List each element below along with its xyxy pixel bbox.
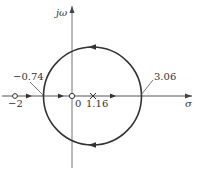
label-minus074: −0.74 bbox=[13, 71, 44, 82]
label-116: 1.16 bbox=[86, 98, 108, 109]
axis-arrow-3 bbox=[110, 94, 116, 99]
locus-arrow-bottom bbox=[88, 142, 96, 147]
label-306: 3.06 bbox=[154, 71, 176, 82]
root-locus-diagram: jω σ −0.74 3.06 −2 0 1.16 bbox=[0, 0, 199, 176]
axis-arrow-2 bbox=[58, 94, 64, 99]
imag-axis-label: jω bbox=[54, 7, 67, 18]
label-origin: 0 bbox=[75, 98, 81, 109]
zero-marker-origin bbox=[69, 93, 74, 98]
leader-line-minus074 bbox=[30, 82, 43, 95]
axis-arrow-1 bbox=[26, 94, 32, 99]
leader-line-306 bbox=[141, 80, 153, 95]
label-minus2: −2 bbox=[8, 98, 23, 109]
locus-arrow-top bbox=[88, 44, 96, 49]
real-axis-label: σ bbox=[185, 98, 193, 109]
